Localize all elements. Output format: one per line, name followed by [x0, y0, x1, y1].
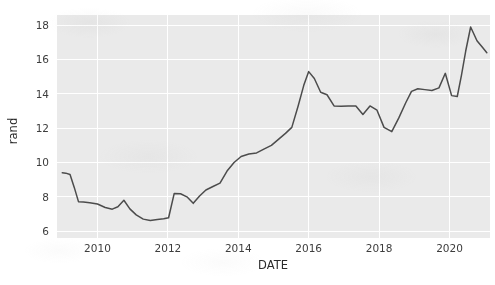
x-tick-label: 2020 — [436, 242, 463, 254]
x-tick-label: 2018 — [366, 242, 393, 254]
x-tick-label: 2012 — [155, 242, 182, 254]
y-tick-label: 12 — [36, 122, 49, 134]
y-axis-title: rand — [6, 118, 20, 144]
x-axis-title: DATE — [258, 258, 288, 272]
x-tick-label: 2010 — [84, 242, 111, 254]
y-tick-label: 6 — [42, 225, 49, 237]
x-tick-label: 2014 — [225, 242, 252, 254]
y-tick-label: 14 — [36, 88, 50, 100]
y-tick-label: 18 — [36, 19, 49, 31]
plot-area-background — [57, 15, 490, 238]
chart-root: 681012141618 201020122014201620182020 ra… — [0, 0, 495, 285]
y-tick-label: 8 — [42, 191, 49, 203]
y-tick-label: 16 — [36, 53, 50, 65]
x-tick-label: 2016 — [295, 242, 322, 254]
y-tick-label: 10 — [36, 156, 49, 168]
line-chart: 681012141618 201020122014201620182020 ra… — [0, 0, 495, 285]
